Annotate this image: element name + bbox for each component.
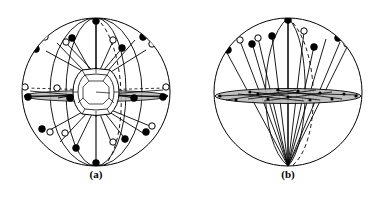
node-filled (160, 94, 167, 101)
node-filled (249, 41, 256, 48)
node-open (63, 39, 69, 45)
node-filled (93, 18, 100, 25)
node-filled (335, 35, 342, 42)
node-filled (69, 35, 76, 42)
node-filled (73, 145, 80, 152)
panel-a: (a) (0, 0, 192, 182)
node-filled (25, 94, 32, 101)
caption-b: (b) (192, 168, 384, 180)
cage-core (73, 67, 119, 117)
node-filled (225, 47, 232, 54)
node-open (149, 123, 155, 129)
panel-b: (b) (192, 0, 384, 182)
node-open (62, 130, 68, 136)
node-open (110, 139, 116, 145)
caption-a: (a) (0, 168, 192, 180)
node-filled (119, 45, 126, 52)
node-open (54, 85, 60, 91)
node-open (110, 37, 116, 43)
node-filled (269, 33, 276, 40)
node-filled (131, 95, 138, 102)
node-open (301, 28, 307, 34)
panel-a-drawing (0, 0, 192, 182)
panel-b-drawing (192, 0, 384, 182)
node-filled (67, 95, 74, 102)
node-open (42, 34, 48, 40)
node-filled (143, 129, 150, 136)
figure-container: (a) (0, 0, 384, 205)
node-open (22, 84, 28, 90)
node-filled (39, 126, 46, 133)
node-filled (122, 136, 129, 143)
node-filled (93, 160, 100, 167)
node-open (47, 129, 53, 135)
node-tips (225, 17, 351, 54)
node-filled (311, 44, 318, 51)
node-open (163, 84, 169, 90)
node-open (237, 37, 243, 43)
node-open (255, 35, 261, 41)
